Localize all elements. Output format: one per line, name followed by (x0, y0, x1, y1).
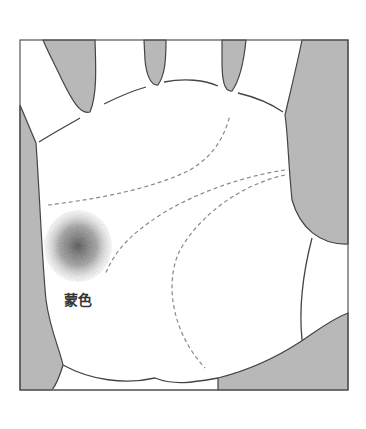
palm-svg (0, 0, 366, 429)
pigment-label: 蒙色 (64, 289, 92, 309)
palm-diagram (0, 0, 366, 429)
